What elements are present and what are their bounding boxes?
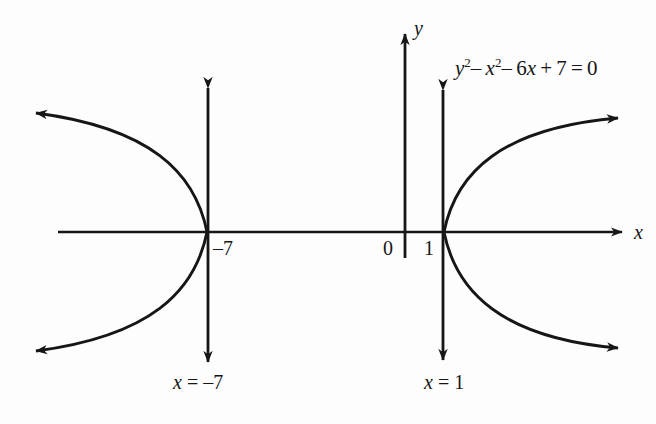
equation-linear-var: x: [527, 56, 536, 80]
equation-equals: =: [571, 56, 583, 80]
hyperbola-branch-right-lower: [444, 232, 618, 348]
hyperbola-figure: x y –7 0 1 x = –7 x = 1 y2– x2– 6x + 7 =…: [0, 0, 656, 424]
equation-minus-2: –: [501, 56, 512, 80]
asymptote-right-var: x: [424, 371, 433, 393]
equation-term-x: x: [486, 56, 495, 80]
hyperbola-branch-left-lower: [36, 232, 207, 351]
equation-plus: +: [540, 56, 552, 80]
equation-constant: 7: [556, 56, 567, 80]
hyperbola-branch-right-upper: [444, 118, 618, 232]
equation-minus-1: –: [471, 56, 482, 80]
x-axis-label: x: [634, 222, 643, 242]
asymptote-label-left: x = –7: [173, 372, 223, 392]
equation-coefficient-6: 6: [516, 56, 527, 80]
tick-label-neg7: –7: [213, 238, 233, 258]
tick-label-zero: 0: [383, 238, 393, 258]
y-axis-label: y: [414, 18, 423, 38]
hyperbola-branch-left-upper: [36, 113, 207, 232]
asymptote-left-var: x: [173, 371, 182, 393]
asymptote-label-right: x = 1: [424, 372, 464, 392]
tick-label-one: 1: [424, 238, 434, 258]
equation-label: y2– x2– 6x + 7 = 0: [455, 56, 598, 79]
asymptote-right-value: = 1: [433, 371, 464, 393]
equation-rhs: 0: [587, 56, 598, 80]
equation-term-y: y: [455, 56, 464, 80]
asymptote-left-value: = –7: [182, 371, 223, 393]
